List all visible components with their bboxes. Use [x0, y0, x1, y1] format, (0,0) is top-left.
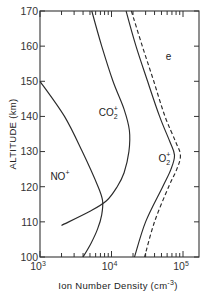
x-tick-exponent: 5	[185, 260, 189, 267]
label-subscript: 2	[114, 113, 118, 120]
curve-co2-plus	[62, 11, 130, 225]
curve-no-plus	[40, 81, 103, 257]
y-tick-label: 150	[20, 75, 38, 87]
axis-ticks: 100110120130140150160170103104105	[20, 5, 199, 272]
plot-axes	[40, 11, 199, 257]
x-title-close: )	[174, 280, 177, 291]
data-curves	[40, 11, 180, 257]
curve-labels: NO+CO2+O2+e	[50, 51, 171, 181]
label-e: e	[166, 51, 172, 62]
label-charge: +	[65, 169, 69, 176]
label-charge: +	[114, 105, 118, 112]
y-tick-label: 140	[20, 110, 38, 122]
y-tick-label: 120	[20, 181, 38, 193]
y-tick-label: 170	[20, 5, 38, 17]
curve-o2-plus	[126, 11, 174, 257]
ion-density-chart: 100110120130140150160170103104105 NO+CO2…	[0, 0, 208, 297]
y-axis-title: ALTITUDE (km)	[7, 99, 18, 170]
x-tick-label: 103	[30, 260, 46, 272]
x-tick-exponent: 4	[113, 260, 117, 267]
x-tick-label: 105	[173, 260, 189, 272]
y-tick-label: 130	[20, 145, 38, 157]
label-charge: +	[166, 151, 170, 158]
y-tick-label: 110	[21, 216, 38, 228]
y-tick-label: 160	[20, 40, 38, 52]
curve-e	[131, 11, 180, 257]
label-o2-plus: O2+	[159, 151, 171, 166]
label-no-plus: NO+	[50, 169, 69, 182]
x-tick-label: 104	[102, 260, 118, 272]
x-title-exponent: -3	[167, 279, 174, 286]
label-co2-plus: CO2+	[99, 105, 118, 120]
plot-frame	[40, 11, 199, 257]
x-axis-title: Ion Number Density (cm-3)	[58, 279, 177, 291]
x-tick-exponent: 3	[42, 260, 46, 267]
label-subscript: 2	[166, 159, 170, 166]
